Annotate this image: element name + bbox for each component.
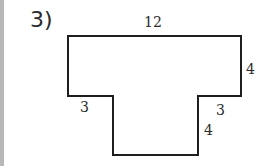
dimension-bottom-left-ledge: 3 [80,100,89,114]
dimension-bottom-right-ledge: 3 [216,103,225,117]
dimension-top: 12 [144,15,162,29]
dimension-stem-height: 4 [204,123,213,137]
t-shape-outline [68,36,241,155]
dimension-right-side: 4 [246,62,255,76]
t-shape-figure [0,0,271,166]
